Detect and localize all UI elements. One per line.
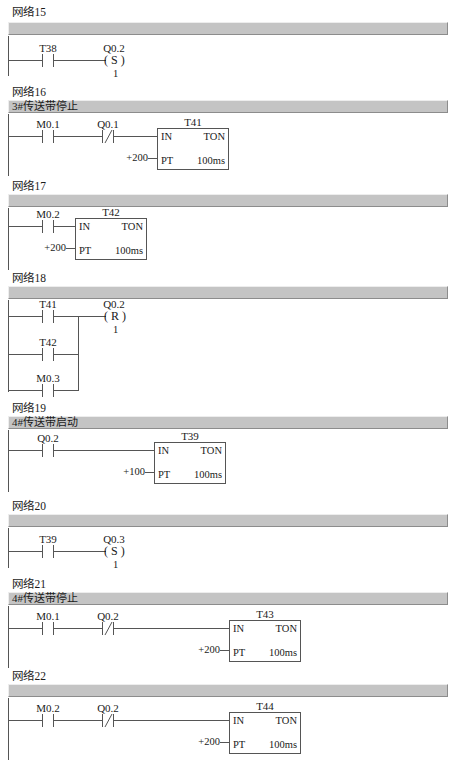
- power-rail-18: [8, 300, 9, 392]
- network-label-20: 网络20: [12, 500, 46, 513]
- timer-in-label: IN: [161, 131, 172, 143]
- wire-18-out: [78, 316, 106, 317]
- network-title-bar-16[interactable]: 3#传送带停止: [8, 100, 448, 113]
- network-label-15: 网络15: [12, 6, 46, 19]
- timer-block-t41[interactable]: IN TON PT 100ms: [157, 128, 229, 170]
- wire-21-a: [8, 628, 42, 629]
- wire-22-pt: [220, 742, 229, 743]
- contact-bar-left: [42, 130, 43, 143]
- wire-20-a: [8, 551, 42, 552]
- timer-preset-t42: +200: [22, 242, 66, 254]
- contact-m02-22[interactable]: [42, 714, 54, 727]
- network-title-bar-17[interactable]: [8, 194, 448, 207]
- network-label-22: 网络22: [12, 670, 46, 683]
- network-label-19: 网络19: [12, 402, 46, 415]
- network-title-bar-15[interactable]: [8, 22, 448, 35]
- network-title-bar-22[interactable]: [8, 684, 448, 697]
- network-title-bar-21[interactable]: 4#传送带停止: [8, 592, 448, 605]
- timer-in-label: IN: [158, 445, 169, 457]
- wire-21-b: [54, 628, 102, 629]
- contact-q01-16-nc[interactable]: [102, 130, 114, 143]
- coil-op: S: [111, 53, 118, 67]
- coil-q02-set[interactable]: ( S ): [104, 53, 125, 67]
- timer-name-t42: T42: [75, 206, 147, 218]
- contact-q02-22-nc[interactable]: [102, 714, 114, 727]
- contact-m03-18[interactable]: [42, 384, 54, 397]
- network-title-bar-20[interactable]: [8, 514, 448, 527]
- wire-18-a2: [8, 354, 42, 355]
- contact-t38[interactable]: [42, 54, 54, 67]
- wire-22-b: [54, 720, 102, 721]
- timer-block-t42[interactable]: IN TON PT 100ms: [75, 218, 147, 260]
- coil-count-15: 1: [113, 68, 118, 80]
- timer-name-t39: T39: [154, 430, 226, 442]
- wire-17-a: [8, 226, 42, 227]
- contact-label-q02-19: Q0.2: [26, 432, 70, 444]
- wire-18-b3: [54, 390, 79, 391]
- contact-bar-left: [42, 545, 43, 558]
- contact-slash-icon: [103, 621, 114, 636]
- coil-q03-set[interactable]: ( S ): [104, 544, 125, 558]
- contact-q02-19[interactable]: [42, 444, 54, 457]
- wire-15-b: [54, 60, 106, 61]
- branch-junction-18: [78, 316, 79, 391]
- timer-resolution-label: 100ms: [115, 245, 143, 257]
- wire-21-c: [114, 628, 229, 629]
- timer-name-t43: T43: [229, 608, 301, 620]
- wire-16-c: [114, 136, 157, 137]
- contact-label-t39-20: T39: [26, 533, 70, 545]
- timer-name-t44: T44: [229, 700, 301, 712]
- timer-pt-label: PT: [233, 647, 245, 659]
- timer-pt-label: PT: [158, 469, 170, 481]
- contact-label-m02-22: M0.2: [26, 702, 70, 714]
- network-label-17: 网络17: [12, 180, 46, 193]
- timer-in-label: IN: [233, 623, 244, 635]
- timer-block-t39[interactable]: IN TON PT 100ms: [154, 442, 226, 484]
- wire-16-pt: [148, 158, 157, 159]
- contact-slash-icon: [103, 713, 114, 728]
- timer-name-t41: T41: [157, 116, 229, 128]
- contact-t42-18[interactable]: [42, 348, 54, 361]
- power-rail-21: [8, 606, 9, 668]
- contact-m02-17[interactable]: [42, 220, 54, 233]
- timer-type-label: TON: [122, 221, 143, 233]
- network-title-text-19: 4#传送带启动: [12, 416, 78, 429]
- contact-q02-21-nc[interactable]: [102, 622, 114, 635]
- wire-17-pt: [66, 248, 75, 249]
- timer-pt-label: PT: [161, 155, 173, 167]
- wire-17-b: [54, 226, 75, 227]
- timer-preset-t43: +200: [176, 644, 220, 656]
- wire-15-a: [8, 60, 42, 61]
- coil-q02-reset[interactable]: ( R ): [104, 309, 126, 323]
- timer-preset-t39: +100: [101, 466, 145, 478]
- contact-bar-left: [42, 714, 43, 727]
- coil-op: R: [111, 309, 119, 323]
- timer-type-label: TON: [276, 623, 297, 635]
- timer-pt-label: PT: [79, 245, 91, 257]
- contact-bar-left: [42, 310, 43, 323]
- ladder-diagram-page: 网络15 T38 Q0.2 ( S ) 1 网络16 3#传送带停止 M0.1 …: [0, 0, 455, 769]
- coil-count-18: 1: [113, 324, 118, 336]
- contact-bar-left: [42, 384, 43, 397]
- timer-resolution-label: 100ms: [194, 469, 222, 481]
- wire-22-a: [8, 720, 42, 721]
- network-title-bar-19[interactable]: 4#传送带启动: [8, 416, 448, 429]
- contact-label-t38: T38: [26, 42, 70, 54]
- wire-22-c: [114, 720, 229, 721]
- timer-block-t44[interactable]: IN TON PT 100ms: [229, 712, 301, 754]
- network-label-21: 网络21: [12, 578, 46, 591]
- timer-preset-t44: +200: [176, 736, 220, 748]
- contact-t41-18[interactable]: [42, 310, 54, 323]
- contact-m01-16[interactable]: [42, 130, 54, 143]
- timer-in-label: IN: [79, 221, 90, 233]
- network-label-18: 网络18: [12, 272, 46, 285]
- network-title-bar-18[interactable]: [8, 286, 448, 299]
- wire-20-b: [54, 551, 106, 552]
- contact-t39-20[interactable]: [42, 545, 54, 558]
- wire-19-pt: [145, 472, 154, 473]
- timer-block-t43[interactable]: IN TON PT 100ms: [229, 620, 301, 662]
- power-rail-20: [8, 528, 9, 568]
- contact-m01-21[interactable]: [42, 622, 54, 635]
- contact-bar-left: [42, 622, 43, 635]
- contact-label-m03-18: M0.3: [26, 372, 70, 384]
